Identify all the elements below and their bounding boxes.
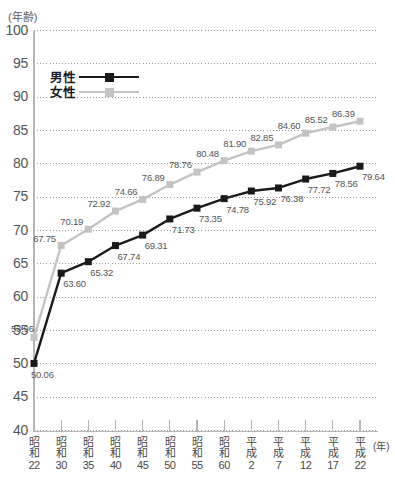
data-point-label: 81.90 [223, 138, 246, 149]
x-tick-label: 昭和60 [211, 437, 237, 472]
x-tick-label: 平成2 [238, 437, 264, 472]
data-point-label: 78.76 [169, 159, 192, 170]
x-tick-label: 昭和22 [21, 437, 47, 472]
data-point-label: 86.39 [332, 108, 355, 119]
y-tick-label: 50 [0, 355, 28, 371]
x-tick-label-line: 12 [293, 460, 319, 472]
data-point-label: 53.96 [11, 323, 34, 334]
x-tick-label-line: 40 [103, 460, 129, 472]
x-tick-label: 平成12 [293, 437, 319, 472]
y-tick-label: 65 [0, 255, 28, 271]
y-tick-label: 45 [0, 388, 28, 404]
legend-marker-male [105, 73, 114, 82]
x-tick-label-line: 45 [130, 460, 156, 472]
data-point-label: 76.89 [142, 172, 165, 183]
x-tick-label: 昭和55 [184, 437, 210, 472]
legend-swatch-male [79, 71, 139, 83]
x-tick-label: 昭和50 [157, 437, 183, 472]
data-point-label: 70.19 [60, 216, 83, 227]
x-tick-label: 昭和35 [75, 437, 101, 472]
x-tick-label-line: 成 [266, 448, 292, 460]
data-point-label: 63.60 [63, 278, 86, 289]
data-point-label: 84.60 [278, 120, 301, 131]
x-tick-label-line: 和 [75, 448, 101, 460]
x-tick-label-line: 和 [103, 448, 129, 460]
x-tick-label: 昭和40 [103, 437, 129, 472]
data-point-label: 73.35 [199, 213, 222, 224]
data-point-label: 77.72 [308, 184, 331, 195]
y-tick-label: 60 [0, 288, 28, 304]
y-tick-label: 90 [0, 88, 28, 104]
x-tick-label-line: 和 [157, 448, 183, 460]
x-tick-label-line: 成 [293, 448, 319, 460]
legend-marker-female [105, 88, 114, 97]
data-point-label: 75.92 [253, 196, 276, 207]
data-point-label: 67.75 [33, 233, 56, 244]
x-tick-label-line: 22 [347, 460, 373, 472]
x-tick-label-line: 和 [48, 448, 74, 460]
x-tick-label-line: 和 [21, 448, 47, 460]
legend-swatch-female [79, 86, 139, 98]
x-tick-label-line: 成 [347, 448, 373, 460]
data-point-label: 72.92 [88, 198, 111, 209]
x-tick-label-line: 成 [320, 448, 346, 460]
data-point-label: 85.52 [305, 114, 328, 125]
x-tick-label-line: 成 [238, 448, 264, 460]
y-tick-label: 85 [0, 122, 28, 138]
x-tick-label: 昭和45 [130, 437, 156, 472]
x-tick-label-line: 50 [157, 460, 183, 472]
x-tick-label: 平成22 [347, 437, 373, 472]
data-point-label: 79.64 [362, 171, 385, 182]
x-tick-label-line: 22 [21, 460, 47, 472]
data-point-label: 78.56 [335, 178, 358, 189]
data-point-label: 76.38 [281, 193, 304, 204]
y-tick-label: 40 [0, 422, 28, 438]
x-axis-unit-label: (年) [373, 438, 390, 453]
y-tick-label: 70 [0, 222, 28, 238]
legend-item-female: 女性 [50, 84, 139, 99]
data-point-label: 82.85 [251, 132, 274, 143]
y-tick-label: 100 [0, 22, 28, 38]
y-tick-label: 95 [0, 55, 28, 71]
x-tick-label-line: 2 [238, 460, 264, 472]
x-tick-label-line: 和 [184, 448, 210, 460]
x-tick-label-line: 60 [211, 460, 237, 472]
data-point-label: 69.31 [145, 240, 168, 251]
y-tick-label: 80 [0, 155, 28, 171]
x-tick-label-line: 和 [130, 448, 156, 460]
data-point-label: 65.32 [90, 267, 113, 278]
x-tick-label-line: 7 [266, 460, 292, 472]
y-tick-label: 75 [0, 188, 28, 204]
data-point-label: 67.74 [118, 251, 141, 262]
data-point-label: 71.73 [172, 224, 195, 235]
x-tick-label-line: 30 [48, 460, 74, 472]
data-point-label: 80.48 [196, 148, 219, 159]
x-tick-label: 昭和30 [48, 437, 74, 472]
x-tick-label: 平成7 [266, 437, 292, 472]
data-point-label: 50.06 [31, 369, 54, 380]
life-expectancy-line-chart: (年齢) 100959085807570656055504540 昭和22昭和3… [0, 0, 395, 481]
data-point-label: 74.66 [115, 186, 138, 197]
x-tick-label-line: 和 [211, 448, 237, 460]
x-tick-label: 平成17 [320, 437, 346, 472]
x-tick-label-line: 55 [184, 460, 210, 472]
x-tick-label-line: 35 [75, 460, 101, 472]
data-point-label: 74.78 [226, 204, 249, 215]
chart-legend: 男性 女性 [50, 69, 139, 99]
legend-label-female: 女性 [50, 82, 75, 101]
x-tick-label-line: 17 [320, 460, 346, 472]
